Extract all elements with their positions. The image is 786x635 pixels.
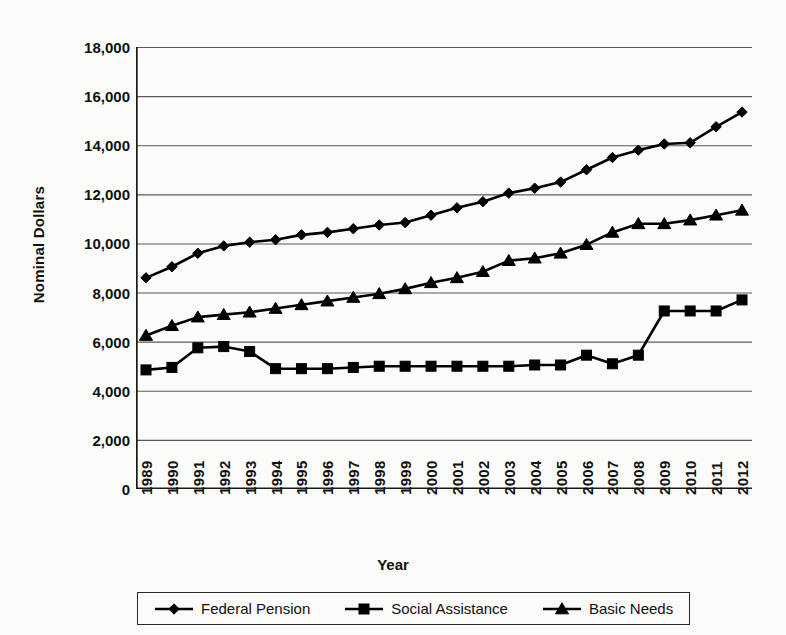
chart-legend: Federal PensionSocial AssistanceBasic Ne…	[137, 592, 690, 625]
x-axis-title: Year	[0, 556, 786, 573]
x-axis-tick-labels: 1989199019911992199319941995199619971998…	[0, 0, 786, 635]
x-tick-label: 2004	[526, 460, 543, 495]
x-axis-title-text: Year	[377, 556, 409, 573]
legend-label: Social Assistance	[391, 600, 508, 617]
x-tick-label: 1992	[215, 460, 232, 495]
legend-label: Basic Needs	[589, 600, 673, 617]
x-tick-label: 2003	[500, 460, 517, 495]
x-tick-label: 1989	[138, 460, 155, 495]
x-tick-label: 1991	[189, 460, 206, 495]
x-tick-label: 2011	[708, 461, 725, 495]
x-tick-label: 2010	[682, 460, 699, 495]
diamond-marker-icon	[154, 601, 194, 617]
x-tick-label: 2000	[423, 460, 440, 495]
x-tick-label: 2005	[552, 460, 569, 495]
x-tick-label: 2001	[448, 460, 465, 495]
square-marker-icon	[344, 601, 384, 617]
x-tick-label: 2009	[656, 460, 673, 495]
x-tick-label: 2007	[604, 460, 621, 495]
x-tick-label: 2002	[474, 460, 491, 495]
legend-item[interactable]: Social Assistance	[344, 600, 508, 617]
x-tick-label: 1997	[345, 460, 362, 495]
chart-page: Nominal Dollars 02,0004,0006,0008,00010,…	[0, 0, 786, 635]
x-tick-label: 1993	[241, 460, 258, 495]
x-tick-label: 2008	[630, 460, 647, 495]
data-point-square	[359, 604, 369, 614]
x-tick-label: 1994	[267, 460, 284, 495]
x-tick-label: 2012	[734, 460, 751, 495]
legend-label: Federal Pension	[201, 600, 310, 617]
triangle-marker-icon	[542, 601, 582, 617]
x-tick-label: 1996	[319, 460, 336, 495]
x-tick-label: 2006	[578, 460, 595, 495]
data-point-diamond	[169, 603, 179, 613]
legend-item[interactable]: Basic Needs	[542, 600, 673, 617]
x-tick-label: 1999	[397, 460, 414, 495]
legend-item[interactable]: Federal Pension	[154, 600, 310, 617]
x-tick-label: 1995	[293, 460, 310, 495]
x-tick-label: 1990	[163, 460, 180, 495]
x-tick-label: 1998	[371, 460, 388, 495]
